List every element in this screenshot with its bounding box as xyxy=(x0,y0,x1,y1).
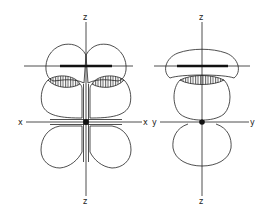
right-panel xyxy=(154,22,250,196)
left-lower-lobe-left xyxy=(41,126,82,168)
right-z-top-label: z xyxy=(199,13,203,22)
right-overlap-hatch xyxy=(180,76,224,85)
left-center-dot xyxy=(83,119,89,125)
left-x-right-label: x xyxy=(143,118,148,127)
right-y-left-label: y xyxy=(152,118,157,127)
left-z-bottom-label: z xyxy=(83,197,87,206)
left-x-left-label: x xyxy=(18,118,23,127)
right-z-bottom-label: z xyxy=(199,197,203,206)
left-panel xyxy=(24,22,142,196)
orbital-diagram: z z x x z z y y xyxy=(0,0,268,220)
left-overlap-hatch-right xyxy=(92,76,124,87)
right-center-dot xyxy=(199,119,205,125)
left-lower-lobe-right xyxy=(90,126,131,168)
left-overlap-hatch-left xyxy=(48,76,80,87)
right-y-right-label: y xyxy=(250,118,255,127)
left-z-top-label: z xyxy=(83,13,87,22)
